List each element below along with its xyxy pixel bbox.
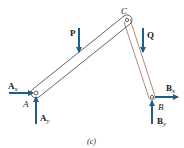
label-p: P [70, 28, 76, 38]
label-b: B [158, 102, 164, 112]
label-by: By [157, 116, 167, 128]
free-body-diagram: P Q C A B Ax Ay Bx By (c) [0, 0, 184, 148]
caption: (c) [87, 137, 96, 146]
label-c: C [121, 6, 128, 16]
label-bx: Bx [166, 83, 176, 95]
pin-b [150, 95, 153, 98]
label-a: A [22, 99, 29, 109]
diagram-svg: P Q C A B Ax Ay Bx By (c) [0, 0, 184, 148]
label-ay: Ay [40, 113, 51, 125]
pin-c [125, 18, 128, 21]
member-ac [31, 15, 132, 98]
pin-a [34, 91, 38, 95]
label-q: Q [147, 30, 154, 40]
label-ax: Ax [8, 81, 19, 93]
